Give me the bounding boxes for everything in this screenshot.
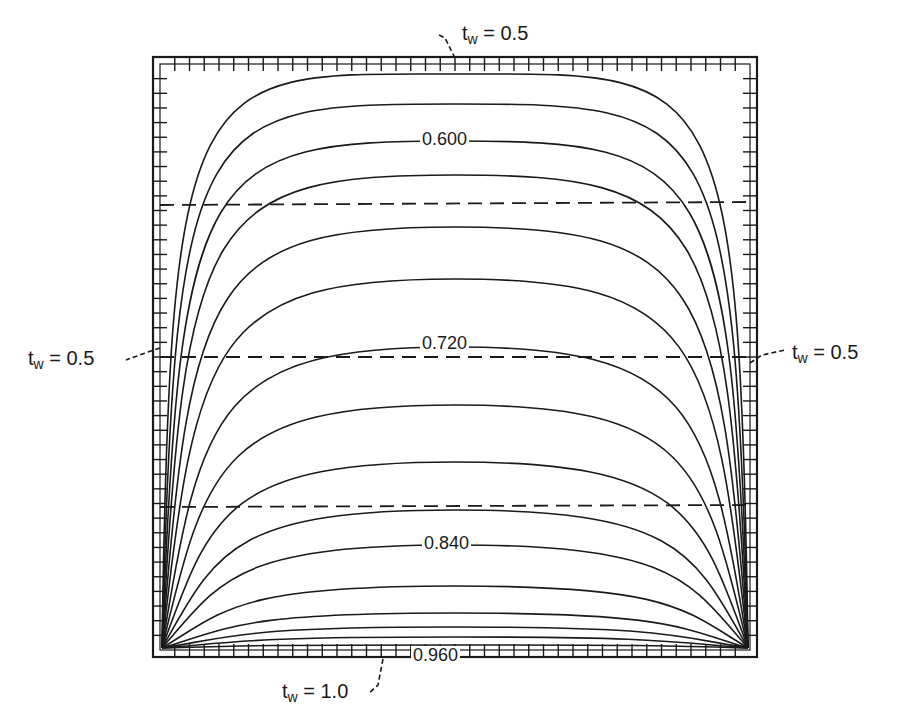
label-eq: = (298, 680, 321, 702)
contour-lines (162, 74, 748, 648)
label-value: 1.0 (320, 680, 348, 702)
contour-label-0-840: 0.840 (422, 534, 471, 552)
label-sub: w (468, 31, 478, 47)
label-eq: = (478, 22, 501, 44)
label-eq: = (44, 347, 67, 369)
boundary-label-left: tw = 0.5 (28, 348, 94, 371)
contour-label-0-960: 0.960 (411, 646, 460, 664)
label-sub: w (798, 350, 808, 366)
label-sub: w (34, 356, 44, 372)
contour-diagram (0, 0, 909, 723)
boundary-label-bottom: tw = 1.0 (282, 681, 348, 704)
label-value: 0.5 (830, 341, 858, 363)
label-value: 0.5 (66, 347, 94, 369)
label-sub: w (288, 689, 298, 705)
label-eq: = (808, 341, 831, 363)
boundary-label-top: tw = 0.5 (462, 23, 528, 46)
contour-label-0-600: 0.600 (420, 130, 469, 148)
boundary-label-right: tw = 0.5 (792, 342, 858, 365)
contour-label-0-720: 0.720 (420, 334, 469, 352)
label-value: 0.5 (500, 22, 528, 44)
